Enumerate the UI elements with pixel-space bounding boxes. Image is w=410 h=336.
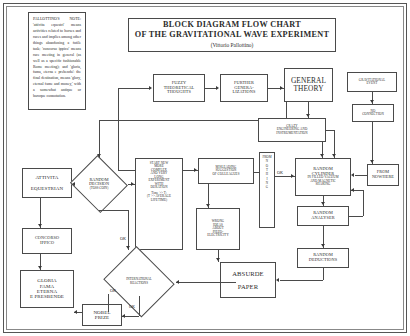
node-gravitational-event: GRAVITATIONAL EVENT bbox=[347, 72, 397, 92]
node-line: THEORY bbox=[285, 85, 332, 93]
node-line: ANALYSER bbox=[298, 216, 348, 221]
arrow-head bbox=[351, 188, 354, 192]
arrow-head bbox=[149, 86, 152, 90]
arrow-head bbox=[131, 182, 134, 186]
arrow-head bbox=[320, 154, 324, 157]
arrow-head bbox=[38, 224, 42, 227]
node-from-nowhere: FROM NOWHERE bbox=[367, 164, 399, 186]
arrow-head bbox=[332, 154, 336, 157]
edge-label-ok-decision: OK bbox=[120, 236, 126, 241]
arrow-head bbox=[206, 204, 210, 207]
connector bbox=[99, 120, 100, 158]
connector bbox=[128, 210, 129, 250]
arrow-head bbox=[370, 100, 374, 103]
node-gloria-fama: GLORIA FAMA ETERNA E PRESBENDE bbox=[20, 270, 74, 308]
arrow-head bbox=[291, 174, 294, 178]
node-fuzzy-theoretical-thoughts: FUZZY THEORETICAL THOUGHTS bbox=[153, 74, 205, 102]
connector bbox=[363, 190, 364, 216]
node-line: IPPICO bbox=[23, 241, 71, 246]
title-line-1: BLOCK DIAGRAM FLOW CHART bbox=[129, 21, 335, 30]
edge-label-ok-nobel: OK bbox=[129, 304, 135, 309]
node-line: PAPER bbox=[221, 283, 275, 290]
node-nobel-prize: NOBEL PRIZE bbox=[82, 304, 122, 326]
node-letter: G bbox=[266, 185, 268, 189]
node-wrong-ideas-piezo: WRONG IDEAS ABOUT PIEZO- ELECTRICITY bbox=[196, 208, 240, 250]
node-random-analyser: RANDOM ANALYSER bbox=[297, 206, 349, 226]
node-random-decision: RANDOM DECISION (TOSS COIN) bbox=[70, 158, 128, 210]
arrow-head bbox=[122, 314, 125, 318]
connector bbox=[205, 88, 216, 89]
arrow-head bbox=[306, 114, 310, 117]
arrow-head bbox=[370, 160, 374, 163]
flowchart-page: PALLOTTINO'S NOTE: 'attivita equestri' m… bbox=[0, 0, 410, 336]
connector bbox=[139, 296, 140, 316]
connector bbox=[280, 280, 323, 281]
connector bbox=[118, 170, 135, 171]
arrow-head bbox=[216, 86, 219, 90]
node-attivita-equestrian: ATTIVITA EQUESTRIAN bbox=[22, 168, 72, 198]
node-misleading-suggestion: MISLEADING SUGGESTION OF COLLEAGUES bbox=[198, 158, 254, 184]
node-no-connection: NO CONNECTION bbox=[352, 104, 394, 122]
arrow-head bbox=[97, 154, 101, 157]
node-line: EVENT bbox=[348, 82, 396, 85]
connector bbox=[372, 122, 373, 164]
connector bbox=[254, 172, 259, 173]
arrow-head bbox=[38, 266, 42, 269]
arrow-head bbox=[126, 246, 130, 249]
node-subline: (TOSS COIN) bbox=[90, 187, 108, 191]
node-line: DEDUCTIONS bbox=[298, 258, 348, 263]
connector bbox=[176, 282, 236, 283]
connector bbox=[118, 88, 119, 170]
node-line: OF COLLEAGUES bbox=[199, 173, 253, 176]
node-line: NOWHERE bbox=[368, 175, 398, 180]
node-line: E PRESBENDE bbox=[21, 294, 73, 299]
node-formula: LIFETIME) bbox=[136, 199, 182, 202]
node-line: CONNECTION bbox=[353, 113, 393, 116]
node-line: INSTRUMENTATION bbox=[259, 132, 325, 135]
connector bbox=[118, 88, 149, 89]
title-line-2: OF THE GRAVITATIONAL WAVE EXPERIMENT bbox=[129, 31, 335, 40]
page-title: BLOCK DIAGRAM FLOW CHART OF THE GRAVITAT… bbox=[128, 18, 336, 52]
node-random-cylinder: RANDOM CYLINDER IN FILLED VACUUM AND MAG… bbox=[295, 158, 351, 196]
node-crazy-engineering: CRAZY ENGINEERING AND INSTRUMENTATION bbox=[258, 118, 326, 142]
connector bbox=[99, 120, 258, 121]
node-line: PRIZE bbox=[83, 315, 121, 320]
node-line: REACTIONS bbox=[130, 282, 148, 286]
arrow-head bbox=[194, 168, 197, 172]
node-subline: SHAKING bbox=[296, 183, 350, 186]
node-line: LIZATIONS bbox=[221, 90, 267, 95]
connector bbox=[323, 268, 324, 280]
node-line: THOUGHTS bbox=[154, 90, 204, 95]
node-start-new-experiment: START NEW MORE COMPLEX AND VERY LONG EXP… bbox=[135, 158, 183, 250]
connector bbox=[286, 102, 287, 118]
connector bbox=[99, 210, 128, 211]
edge-label-ok: OK bbox=[277, 170, 283, 175]
arrow-head bbox=[72, 182, 75, 186]
node-general-theory: GENERAL THEORY bbox=[284, 68, 333, 102]
node-random-deductions: RANDOM DEDUCTIONS bbox=[297, 248, 349, 268]
arrow-head bbox=[176, 280, 179, 284]
node-line: ELECTRICITY bbox=[197, 234, 239, 237]
arrow-head bbox=[321, 202, 325, 205]
title-author: (Vittorio Pallottino) bbox=[129, 43, 335, 49]
arrow-head bbox=[216, 258, 220, 261]
connector bbox=[349, 216, 363, 217]
connector bbox=[108, 294, 109, 312]
arrow-head bbox=[321, 244, 325, 247]
node-absurde-paper: ABSURDE PAPER bbox=[220, 262, 276, 298]
node-concorso-ippico: CONCORSO IPPICO bbox=[22, 228, 72, 254]
node-line: EQUESTRIAN bbox=[23, 186, 71, 191]
connector bbox=[355, 175, 367, 176]
arrow-head bbox=[351, 173, 354, 177]
connector bbox=[326, 130, 334, 131]
arrow-head bbox=[276, 278, 279, 282]
node-further-generalizations: FURTHER GENERA- LIZATIONS bbox=[220, 74, 268, 102]
arrow-head bbox=[280, 86, 283, 90]
node-from-nothing: FROM N O T H I N G bbox=[259, 152, 275, 228]
edge-label-ok-reactions: OK bbox=[110, 288, 116, 293]
arrow-head bbox=[74, 310, 77, 314]
node-line: ABSURDE bbox=[221, 270, 275, 277]
pallottino-note: PALLOTTINO'S NOTE: 'attivita equestri' m… bbox=[28, 12, 86, 110]
